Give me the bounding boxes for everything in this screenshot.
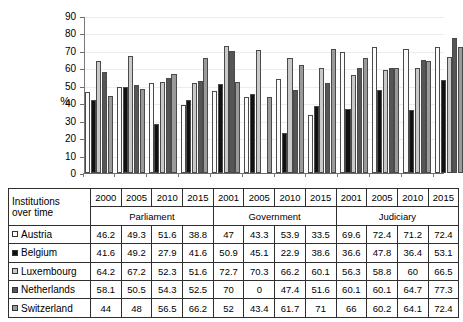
- bar: [212, 91, 217, 173]
- legend-swatch-icon: [12, 268, 18, 274]
- table-cell: 71.2: [397, 225, 428, 243]
- table-cell: 72.4: [428, 299, 459, 317]
- bar: [96, 61, 101, 173]
- table-row-label: Austria: [9, 225, 91, 243]
- table-group-header: Judiciary: [336, 207, 459, 225]
- x-tick-mark: [337, 173, 338, 177]
- bar: [293, 90, 298, 173]
- bar: [267, 97, 272, 173]
- x-tick-mark: [210, 173, 211, 177]
- table-year-header: 2015: [183, 189, 214, 207]
- bar: [426, 61, 431, 173]
- bar: [198, 81, 203, 173]
- legend-swatch-icon: [12, 287, 18, 293]
- table-cell: 36.6: [336, 244, 367, 262]
- x-tick-mark: [83, 173, 84, 177]
- table-cell: 50.5: [121, 280, 152, 298]
- table-cell: 38.8: [183, 225, 214, 243]
- table-body: Austria46.249.351.638.84743.353.933.569.…: [9, 225, 459, 317]
- bar: [319, 68, 324, 173]
- table-year-header: 2005: [121, 189, 152, 207]
- bar: [331, 49, 336, 173]
- x-tick-mark: [114, 173, 115, 177]
- table-cell: 27.9: [152, 244, 183, 262]
- table-cell: 49.2: [121, 244, 152, 262]
- table-cell: 46.2: [91, 225, 122, 243]
- table-cell: 66.2: [275, 262, 306, 280]
- bar: [276, 79, 281, 173]
- y-tick-label: 30: [65, 118, 76, 126]
- table-year-header: 2005: [244, 189, 275, 207]
- bar: [415, 68, 420, 173]
- table-cell: 70: [213, 280, 244, 298]
- y-tick-label: 10: [65, 153, 76, 161]
- corner-label-line2: over time: [12, 207, 53, 218]
- table-cell: 51.6: [183, 262, 214, 280]
- table-cell: 56.3: [336, 262, 367, 280]
- y-tick-label: 20: [65, 135, 76, 143]
- bar: [447, 57, 452, 173]
- bar: [108, 96, 113, 173]
- bar: [314, 106, 319, 173]
- y-tick-label: 0: [70, 170, 76, 178]
- data-table: Institutions over time 20002005201020152…: [8, 188, 459, 318]
- table-cell: 33.5: [305, 225, 336, 243]
- bar-group: [372, 17, 400, 173]
- table-cell: 44: [91, 299, 122, 317]
- bar: [299, 65, 304, 173]
- bar: [123, 87, 128, 173]
- table-cell: 22.9: [275, 244, 306, 262]
- bar-group: [149, 17, 177, 173]
- bar-group: [244, 17, 272, 173]
- x-tick-mark: [369, 173, 370, 177]
- bar: [102, 72, 107, 173]
- table-header: Institutions over time 20002005201020152…: [9, 189, 459, 226]
- table-cell: 66.2: [183, 299, 214, 317]
- bar: [452, 38, 457, 173]
- table-cell: 67.2: [121, 262, 152, 280]
- table-cell: 56.5: [152, 299, 183, 317]
- table-cell: 43.3: [244, 225, 275, 243]
- bar: [203, 58, 208, 173]
- x-tick-mark: [433, 173, 434, 177]
- table-cell: 47.4: [275, 280, 306, 298]
- country-name: Netherlands: [21, 284, 75, 295]
- legend-swatch-icon: [12, 231, 18, 237]
- bar: [235, 82, 240, 173]
- table-year-header: 2001: [213, 189, 244, 207]
- bar: [409, 110, 414, 173]
- table-row-label: Belgium: [9, 244, 91, 262]
- bar-group: [403, 17, 431, 173]
- bar: [128, 56, 133, 173]
- y-tick-label: 70: [65, 48, 76, 56]
- table-cell: 64.2: [91, 262, 122, 280]
- bar-group: [85, 17, 113, 173]
- table-year-header: 2005: [367, 189, 398, 207]
- bar: [192, 83, 197, 173]
- bar: [389, 68, 394, 173]
- bar: [250, 94, 255, 173]
- table-cell: 64.1: [397, 299, 428, 317]
- table-group-header: Government: [213, 207, 336, 225]
- country-name: Belgium: [21, 247, 57, 258]
- table-cell: 69.6: [336, 225, 367, 243]
- table-cell: 47: [213, 225, 244, 243]
- table-cell: 72.4: [367, 225, 398, 243]
- table-cell: 58.8: [367, 262, 398, 280]
- table-row: Luxembourg64.267.252.351.672.770.366.260…: [9, 262, 459, 280]
- bar: [244, 97, 249, 173]
- bar: [224, 46, 229, 173]
- bar-group: [117, 17, 145, 173]
- bar: [134, 85, 139, 173]
- bar: [377, 90, 382, 173]
- country-name: Austria: [21, 229, 52, 240]
- bar: [308, 115, 313, 173]
- table-cell: 53.1: [428, 244, 459, 262]
- table-row: Switzerland444856.566.25243.461.7716660.…: [9, 299, 459, 317]
- table-year-header: 2000: [91, 189, 122, 207]
- bar: [181, 105, 186, 173]
- table-cell: 51.6: [152, 225, 183, 243]
- bar: [383, 70, 388, 173]
- bar-group: [435, 17, 463, 173]
